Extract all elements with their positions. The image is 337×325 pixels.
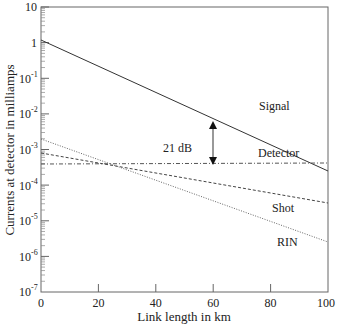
- svg-text:10: 10: [19, 214, 31, 228]
- svg-text:-1: -1: [31, 70, 38, 79]
- x-ticks: [98, 284, 270, 292]
- annotation-arrow: [209, 121, 217, 165]
- label-shot: Shot: [272, 201, 295, 215]
- svg-text:-6: -6: [31, 248, 38, 257]
- svg-text:20: 20: [92, 296, 104, 310]
- svg-text:60: 60: [207, 296, 219, 310]
- svg-text:40: 40: [150, 296, 162, 310]
- y-minor-ticks: [41, 9, 45, 282]
- label-rin: RIN: [277, 235, 298, 249]
- svg-text:10: 10: [19, 179, 31, 193]
- chart: 10 1 10 10 10 10 10 10 10 -1 -2 -3 -4 -5…: [0, 0, 337, 325]
- label-signal: Signal: [259, 99, 290, 113]
- svg-text:10: 10: [19, 250, 31, 264]
- svg-text:-7: -7: [31, 283, 38, 292]
- svg-text:10: 10: [25, 0, 37, 14]
- x-tick-labels: 0 20 40 60 80 100: [38, 296, 335, 310]
- y-axis-label: Currents at detector in milliamps: [2, 64, 17, 235]
- svg-text:10: 10: [19, 143, 31, 157]
- svg-text:100: 100: [317, 296, 335, 310]
- svg-text:-2: -2: [31, 105, 38, 114]
- svg-text:0: 0: [38, 296, 44, 310]
- svg-text:-5: -5: [31, 212, 38, 221]
- series-detector: [41, 163, 328, 164]
- series-labels: Signal Detector Shot RIN 21 dB: [163, 99, 299, 249]
- svg-text:-3: -3: [31, 141, 38, 150]
- svg-text:10: 10: [19, 285, 31, 299]
- y-tick-exponents: -1 -2 -3 -4 -5 -6 -7: [31, 70, 38, 292]
- svg-text:-4: -4: [31, 177, 38, 186]
- label-detector: Detector: [258, 146, 299, 160]
- svg-text:10: 10: [19, 107, 31, 121]
- label-21db: 21 dB: [163, 141, 192, 155]
- svg-text:1: 1: [31, 36, 37, 50]
- svg-text:10: 10: [19, 72, 31, 86]
- series-shot: [41, 153, 328, 203]
- svg-text:80: 80: [265, 296, 277, 310]
- x-axis-label: Link length in km: [137, 309, 231, 324]
